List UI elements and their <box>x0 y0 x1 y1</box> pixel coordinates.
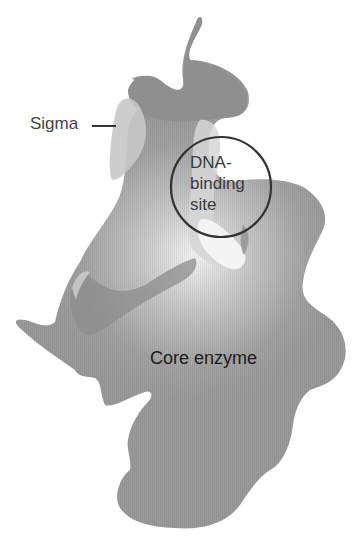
dna-binding-site-label: DNA- binding site <box>190 152 245 215</box>
rna-polymerase-diagram <box>0 0 352 555</box>
dna-binding-site-label-line: site <box>190 194 245 215</box>
dna-binding-site-label-line: DNA- <box>190 152 245 173</box>
sigma-leader-line <box>92 125 116 127</box>
dna-binding-site-label-line: binding <box>190 173 245 194</box>
core-enzyme-label: Core enzyme <box>150 348 257 369</box>
diagram-stage: Sigma DNA- binding site Core enzyme <box>0 0 352 555</box>
sigma-label: Sigma <box>30 114 78 134</box>
upper-domain-shape <box>128 17 247 122</box>
